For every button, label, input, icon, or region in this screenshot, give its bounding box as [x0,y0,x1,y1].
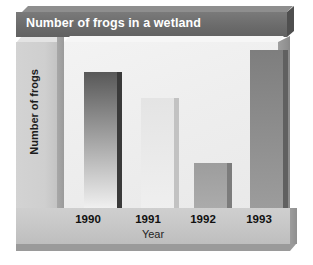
bar-1991 [141,98,174,208]
bar-1992 [194,163,227,208]
x-tick-label-1993: 1993 [234,213,284,225]
bar-1993-side-face [283,50,288,208]
y-axis-wall [57,37,64,208]
chart-title-banner: Number of frogs in a wetland [16,12,287,37]
chart-title: Number of frogs in a wetland [26,16,281,30]
bar-1993-front-face [250,50,283,208]
x-tick-label-1991: 1991 [123,213,173,225]
bar-1991-side-face [174,98,179,208]
x-tick-label-1990: 1990 [63,213,113,225]
chart-floor-right-edge [290,208,297,244]
x-tick-label-1992: 1992 [178,213,228,225]
x-axis-tick-labels: 1990199119921993 [16,213,290,229]
bar-1992-front-face [194,163,227,208]
bar-1990 [84,72,117,208]
bars-container [64,42,278,208]
y-axis-panel: Number of frogs [16,42,57,208]
bar-1992-side-face [227,163,232,208]
bar-chart-figure: Number of frogs in a wetland Number of f… [0,0,313,265]
bar-1993 [250,50,283,208]
bar-1990-side-face [117,72,122,208]
x-axis-title: Year [16,228,290,240]
bar-1991-front-face [141,98,174,208]
chart-floor-bottom-bevel [16,244,296,251]
bar-1990-front-face [84,72,117,208]
y-axis-title: Number of frogs [28,42,48,182]
